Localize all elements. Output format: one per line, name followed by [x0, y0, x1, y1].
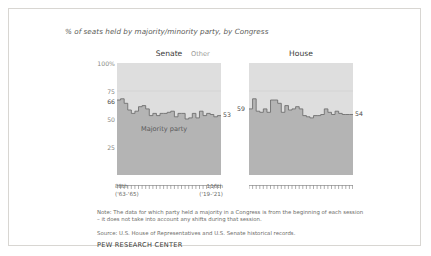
senate-x-label-start-years: ('63-'65): [115, 191, 139, 199]
senate-x-label-start: 88th ('63-'65): [115, 183, 139, 198]
senate-x-ticks: [117, 175, 221, 180]
senate-x-label-end: 116th ('19-'21): [199, 183, 223, 198]
house-panel-title: House: [249, 49, 353, 58]
y-axis-label-75: 75: [107, 88, 115, 95]
senate-x-label-start-congress: 88th: [115, 183, 139, 191]
y-axis-labels: 100% 75 66 50 25: [95, 63, 115, 175]
house-start-value-label: 59: [237, 105, 245, 112]
senate-x-label-end-years: ('19-'21): [199, 191, 223, 199]
page-title: % of seats held by majority/minority par…: [65, 27, 268, 36]
y-axis-label-100: 100%: [97, 60, 115, 67]
chart-frame: % of seats held by majority/minority par…: [8, 8, 421, 246]
senate-area-chart: [117, 63, 221, 175]
chart-source: Source: U.S. House of Representatives an…: [97, 230, 377, 237]
senate-x-label-end-congress: 116th: [199, 183, 223, 191]
y-axis-label-50: 50: [107, 116, 115, 123]
house-x-ticks: [249, 175, 353, 180]
senate-plot-area: [117, 63, 221, 175]
senate-majority-region-label: Majority party: [141, 125, 187, 133]
y-axis-label-25: 25: [107, 144, 115, 151]
house-panel: House: [249, 63, 353, 175]
senate-end-value-label: 53: [223, 111, 231, 118]
house-area-chart: [249, 63, 353, 175]
senate-panel: Senate 100% 75 66 50 25: [117, 63, 221, 175]
house-end-value-label: 54: [355, 110, 363, 117]
house-plot-area: [249, 63, 353, 175]
senate-other-region-label: Other: [191, 50, 210, 58]
y-axis-label-66: 66: [107, 98, 115, 105]
chart-note: Note: The data for which party held a ma…: [97, 209, 367, 224]
brand-label: PEW RESEARCH CENTER: [97, 241, 183, 249]
